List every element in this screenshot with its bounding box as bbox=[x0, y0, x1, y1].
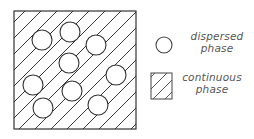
dispersed-particle bbox=[33, 98, 53, 118]
dispersed-particle bbox=[62, 81, 82, 101]
dispersed-particle bbox=[60, 22, 80, 42]
continuous-label-line2: phase bbox=[176, 83, 248, 95]
dispersed-particle bbox=[23, 75, 43, 95]
dispersed-particle bbox=[86, 35, 106, 55]
dispersed-phase-legend-icon bbox=[156, 37, 172, 53]
dispersed-particle bbox=[32, 30, 52, 50]
dispersed-particle bbox=[106, 65, 126, 85]
dispersed-label-line1: dispersed bbox=[186, 30, 248, 42]
continuous-phase-label: continuous phase bbox=[176, 71, 248, 95]
dispersed-phase-label: dispersed phase bbox=[186, 30, 248, 54]
dispersed-label-line2: phase bbox=[186, 42, 248, 54]
dispersed-particle bbox=[88, 95, 108, 115]
emulsion-diagram bbox=[0, 0, 254, 139]
dispersed-particles bbox=[23, 22, 126, 118]
dispersed-particle bbox=[59, 53, 79, 73]
continuous-label-line1: continuous bbox=[176, 71, 248, 83]
